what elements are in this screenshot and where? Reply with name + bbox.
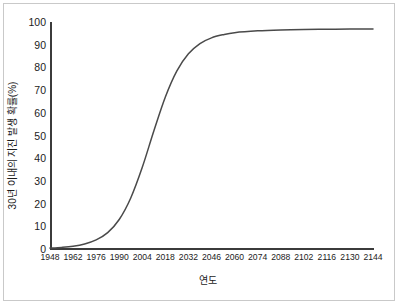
x-tick-label: 2074 xyxy=(248,253,267,262)
y-tick-label: 10 xyxy=(34,221,46,232)
x-tick-label: 2032 xyxy=(179,253,198,262)
y-tick-label: 90 xyxy=(34,40,46,51)
x-tick-label: 2116 xyxy=(318,253,336,262)
y-tick-label: 100 xyxy=(28,17,46,28)
x-tick-label: 1962 xyxy=(64,253,83,262)
y-tick-label: 20 xyxy=(34,199,46,210)
x-tick-label: 2046 xyxy=(202,253,221,262)
y-tick-label: 50 xyxy=(34,131,46,142)
x-tick-label: 2004 xyxy=(133,253,152,262)
x-axis-tick-labels: 1948196219761990200420182032204620602074… xyxy=(50,253,374,269)
x-tick-label: 2130 xyxy=(340,253,359,262)
x-tick-label: 2088 xyxy=(271,253,290,262)
y-tick-label: 30 xyxy=(34,176,46,187)
probability-curve-svg xyxy=(50,22,373,249)
x-tick-label: 1976 xyxy=(87,253,106,262)
x-axis-title-text: 연도 xyxy=(199,275,217,286)
y-tick-label: 60 xyxy=(34,108,46,119)
x-tick-label: 2102 xyxy=(294,253,313,262)
x-tick-label: 1990 xyxy=(110,253,129,262)
y-tick-label: 80 xyxy=(34,62,46,73)
probability-curve xyxy=(50,29,373,248)
y-tick-label: 70 xyxy=(34,85,46,96)
x-tick-label: 1948 xyxy=(40,253,59,262)
plot-area xyxy=(50,22,373,249)
x-tick-label: 2018 xyxy=(156,253,175,262)
y-tick-label: 40 xyxy=(34,153,46,164)
x-tick-label: 2144 xyxy=(363,253,382,262)
x-tick-label: 2060 xyxy=(225,253,244,262)
y-axis-title: 30년 이내의 지진 발생 확률(%) xyxy=(3,50,21,240)
x-axis-title: 연도 xyxy=(0,272,398,287)
y-axis-title-text: 30년 이내의 지진 발생 확률(%) xyxy=(5,81,20,209)
chart-figure: 1009080706050403020100 19481962197619902… xyxy=(0,0,398,304)
